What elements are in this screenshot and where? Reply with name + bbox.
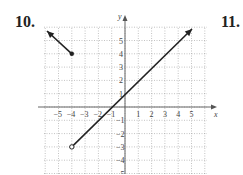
x-tick-label: 3 <box>163 110 167 119</box>
x-tick-label: 1 <box>136 110 140 119</box>
y-tick-label: 5 <box>119 37 123 46</box>
piece-2-line <box>72 29 192 147</box>
y-tick-label: −5 <box>116 170 125 175</box>
y-axis-arrow-icon <box>123 15 128 21</box>
x-tick-label: −3 <box>80 110 89 119</box>
y-tick-label: −4 <box>116 156 125 165</box>
x-tick-label: −5 <box>54 110 63 119</box>
coordinate-graph: xy−5−4−3−2−11234554321−1−2−3−4−5 <box>0 0 243 174</box>
y-tick-label: −3 <box>116 143 125 152</box>
y-axis-label: y <box>117 12 122 21</box>
y-tick-label: 2 <box>119 76 123 85</box>
closed-dot-icon <box>70 52 74 56</box>
x-axis-arrow-icon <box>211 105 217 110</box>
x-tick-label: 2 <box>150 110 154 119</box>
y-tick-label: −1 <box>116 116 125 125</box>
y-tick-label: 3 <box>119 63 123 72</box>
x-tick-label: 5 <box>190 110 194 119</box>
x-tick-label: 4 <box>176 110 180 119</box>
x-tick-label: −4 <box>67 110 76 119</box>
open-dot-icon <box>70 145 74 149</box>
y-tick-label: −2 <box>116 130 125 139</box>
x-axis-label: x <box>213 110 218 119</box>
y-tick-label: 4 <box>119 50 123 59</box>
